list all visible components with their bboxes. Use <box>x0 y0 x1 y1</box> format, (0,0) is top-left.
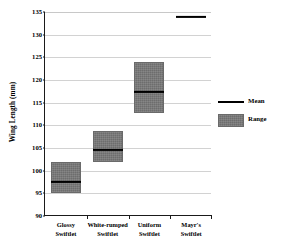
chart-legend: Mean Range <box>218 96 280 132</box>
gridline-115 <box>45 103 211 104</box>
y-tick-mark-120 <box>43 80 46 81</box>
y-tick-mark-115 <box>43 102 46 103</box>
y-tick-mark-105 <box>43 148 46 149</box>
wing-length-range-chart: Wing Length (mm) 90951001051101151201251… <box>0 0 281 248</box>
gridline-120 <box>45 80 211 81</box>
y-tick-mark-110 <box>43 125 46 126</box>
legend-item-range: Range <box>218 114 280 132</box>
y-axis-title: Wing Length (mm) <box>9 52 17 172</box>
y-tick-label-100: 100 <box>32 167 42 174</box>
range-box-1 <box>93 131 123 161</box>
y-tick-mark-90 <box>43 216 46 217</box>
gridline-110 <box>45 125 211 126</box>
x-category-label-0: GlossySwiftlet <box>55 221 76 238</box>
gridline-130 <box>45 35 211 36</box>
y-tick-mark-135 <box>43 12 46 13</box>
gridline-135 <box>45 12 211 13</box>
y-tick-label-110: 110 <box>32 122 42 129</box>
mean-line-3 <box>176 15 206 17</box>
legend-label-range: Range <box>248 115 267 122</box>
x-category-label-2: UniformSwiftlet <box>138 221 161 238</box>
y-tick-label-95: 95 <box>35 190 42 197</box>
mean-line-0 <box>51 181 81 183</box>
x-tick-mark-2 <box>129 215 130 219</box>
range-box-swatch-icon <box>218 114 244 127</box>
x-category-label-3: Mayr'sSwiftlet <box>181 221 202 238</box>
legend-label-mean: Mean <box>248 97 265 104</box>
x-category-label-line1-3: Mayr's <box>181 221 202 230</box>
plot-area: 9095100105110115120125130135 GlossySwift… <box>44 12 211 216</box>
x-category-label-line2-2: Swiftlet <box>138 230 161 239</box>
y-tick-label-105: 105 <box>32 145 42 152</box>
y-tick-mark-95 <box>43 193 46 194</box>
mean-line-2 <box>134 91 164 93</box>
y-tick-mark-125 <box>43 57 46 58</box>
x-axis-end-tick <box>211 215 212 219</box>
y-tick-label-125: 125 <box>32 54 42 61</box>
mean-line-swatch-icon <box>218 101 244 103</box>
legend-item-mean: Mean <box>218 96 280 114</box>
x-tick-mark-1 <box>87 215 88 219</box>
y-tick-label-130: 130 <box>32 31 42 38</box>
y-tick-label-120: 120 <box>32 77 42 84</box>
x-tick-mark-3 <box>170 215 171 219</box>
x-category-label-line2-3: Swiftlet <box>181 230 202 239</box>
gridline-105 <box>45 148 211 149</box>
range-box-0 <box>51 162 81 194</box>
x-category-label-line1-0: Glossy <box>55 221 76 230</box>
mean-line-1 <box>93 149 123 151</box>
y-tick-mark-100 <box>43 170 46 171</box>
x-category-label-line1-2: Uniform <box>138 221 161 230</box>
x-category-label-1: White-rumpedSwiftlet <box>87 221 127 238</box>
y-tick-label-90: 90 <box>35 213 42 220</box>
y-tick-label-115: 115 <box>32 99 42 106</box>
y-tick-mark-130 <box>43 34 46 35</box>
range-box-2 <box>134 62 164 113</box>
x-category-label-line1-1: White-rumped <box>87 221 127 230</box>
x-category-label-line2-1: Swiftlet <box>87 230 127 239</box>
gridline-125 <box>45 57 211 58</box>
y-tick-label-135: 135 <box>32 9 42 16</box>
gridline-95 <box>45 193 211 194</box>
x-category-label-line2-0: Swiftlet <box>55 230 76 239</box>
